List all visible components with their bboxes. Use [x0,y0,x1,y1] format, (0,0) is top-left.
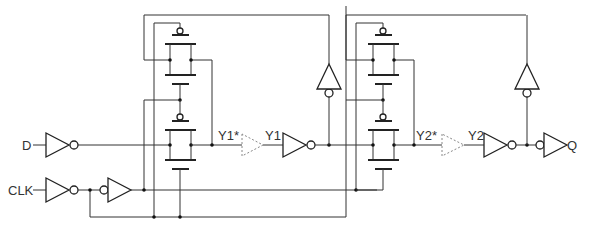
circuit-diagram: D CLK Q Y1* Y1 Y2* Y2 [0,0,604,234]
d-inverter [33,133,171,157]
y2-inverter [484,133,536,157]
output-inverter [536,133,567,157]
clk-inverter-2 [100,178,131,202]
y1-inverter [283,133,372,157]
label-y1: Y1 [265,128,281,143]
label-y2: Y2 [468,128,484,143]
label-q: Q [567,138,577,153]
y2-delay-buffer [442,134,464,156]
label-d: D [22,138,31,153]
label-clk: CLK [8,183,34,198]
schematic-svg: D CLK Q Y1* Y1 Y2* Y2 [0,0,604,234]
label-y1-star: Y1* [218,128,239,143]
y1-delay-buffer [242,134,263,156]
master-input-tg [165,100,242,217]
master-feedback-inverter [317,15,341,145]
slave-feedback-inverter [515,15,539,145]
label-y2-star: Y2* [416,128,437,143]
